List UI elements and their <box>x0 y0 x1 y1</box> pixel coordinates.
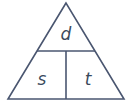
formula-triangle: d s t <box>0 0 132 102</box>
label-speed: s <box>38 69 47 89</box>
label-distance: d <box>61 24 72 44</box>
label-time: t <box>85 69 93 89</box>
